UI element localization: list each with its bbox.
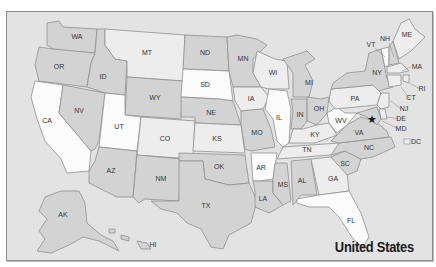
state-label-wy: WY (149, 94, 161, 101)
state-label-il: IL (276, 114, 282, 121)
state-label-sd: SD (200, 81, 210, 88)
state-label-nm: NM (156, 175, 167, 182)
state-label-mn: MN (238, 55, 249, 62)
state-ct (387, 75, 401, 87)
state-me (393, 19, 425, 59)
state-label-al: AL (298, 177, 307, 184)
state-label-ne: NE (206, 109, 216, 116)
state-label-de: DE (396, 115, 406, 122)
state-label-ms: MS (278, 181, 289, 188)
state-label-wa: WA (71, 33, 82, 40)
state-label-co: CO (160, 135, 171, 142)
state-label-fl: FL (347, 217, 355, 224)
state-label-nj: NJ (400, 105, 409, 112)
state-label-ak: AK (58, 211, 68, 218)
state-label-mt: MT (142, 49, 153, 56)
state-label-nv: NV (74, 107, 84, 114)
us-map: WAORCANVIDMTWYUTCOAZNMNDSDNEKSOKTXMNIAMO… (6, 11, 433, 261)
state-label-or: OR (54, 63, 65, 70)
state-or (35, 47, 95, 87)
map-title: United States (335, 238, 414, 255)
state-label-la: LA (259, 195, 268, 202)
dc-swatch (404, 139, 410, 144)
state-label-az: AZ (107, 167, 117, 174)
state-label-ar: AR (256, 164, 266, 171)
state-label-id: ID (100, 73, 107, 80)
state-label-me: ME (402, 31, 413, 38)
state-label-ok: OK (214, 163, 224, 170)
state-ak (37, 191, 119, 253)
state-label-sc: SC (340, 160, 350, 167)
state-label-ky: KY (310, 131, 320, 138)
state-label-va: VA (355, 129, 364, 136)
state-label-pa: PA (351, 95, 360, 102)
state-label-ga: GA (328, 175, 338, 182)
state-label-ca: CA (42, 117, 52, 124)
state-label-nd: ND (200, 49, 210, 56)
state-label-oh: OH (314, 105, 325, 112)
state-label-ct: CT (406, 94, 416, 101)
state-label-mi: MI (305, 79, 313, 86)
state-label-in: IN (297, 111, 304, 118)
state-label-vt: VT (367, 41, 377, 48)
state-label-ny: NY (372, 69, 382, 76)
capital-star-icon: ★ (367, 113, 377, 125)
state-label-ri: RI (419, 85, 426, 92)
state-label-ut: UT (114, 123, 124, 130)
state-label-nc: NC (364, 144, 374, 151)
state-label-hi: HI (150, 241, 157, 248)
map-canvas: WAORCANVIDMTWYUTCOAZNMNDSDNEKSOKTXMNIAMO… (7, 12, 433, 261)
state-label-tx: TX (202, 202, 211, 209)
state-label-ma: MA (412, 63, 423, 70)
state-label-mo: MO (251, 129, 263, 136)
state-label-wi: WI (269, 69, 278, 76)
state-label-ks: KS (212, 135, 222, 142)
state-label-wv: WV (335, 117, 347, 124)
state-ri (403, 75, 409, 83)
state-label-nh: NH (380, 35, 390, 42)
state-label-ia: IA (248, 95, 255, 102)
state-label-md: MD (396, 125, 407, 132)
state-label-tn: TN (302, 146, 311, 153)
state-label-dc: DC (411, 138, 421, 145)
